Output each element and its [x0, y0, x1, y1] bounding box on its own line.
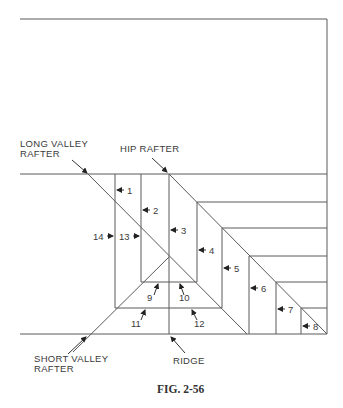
roof-framing-diagram: LONG VALLEY RAFTER HIP RAFTER SHORT VALL…	[0, 0, 343, 408]
svg-text:3: 3	[181, 225, 186, 236]
svg-text:RAFTER: RAFTER	[20, 148, 60, 159]
svg-text:11: 11	[131, 318, 141, 329]
label-short-valley-rafter: SHORT VALLEY RAFTER	[34, 337, 109, 374]
svg-text:8: 8	[313, 321, 318, 332]
svg-text:7: 7	[288, 304, 293, 315]
svg-text:4: 4	[209, 245, 214, 256]
svg-text:HIP RAFTER: HIP RAFTER	[120, 143, 179, 154]
svg-text:14: 14	[93, 231, 104, 242]
label-hip-rafter: HIP RAFTER	[120, 143, 179, 172]
svg-text:13: 13	[119, 231, 130, 242]
long-valley-rafter	[88, 174, 247, 334]
svg-text:9: 9	[147, 292, 152, 303]
short-valley-rafter	[73, 257, 169, 352]
svg-text:RIDGE: RIDGE	[173, 355, 205, 366]
figure-caption: FIG. 2-56	[157, 383, 205, 395]
numbered-callouts: 1 2 3 4 5 6 7 8 9 10 11 12 13 14	[93, 185, 318, 332]
svg-text:5: 5	[234, 263, 239, 274]
label-long-valley-rafter: LONG VALLEY RAFTER	[20, 138, 88, 173]
svg-text:10: 10	[179, 292, 190, 303]
hip-rafter	[169, 174, 327, 334]
svg-text:12: 12	[194, 318, 205, 329]
label-ridge: RIDGE	[171, 337, 205, 366]
svg-text:1: 1	[127, 185, 132, 196]
svg-text:RAFTER: RAFTER	[34, 363, 74, 374]
svg-text:2: 2	[153, 205, 158, 216]
svg-text:6: 6	[261, 283, 266, 294]
